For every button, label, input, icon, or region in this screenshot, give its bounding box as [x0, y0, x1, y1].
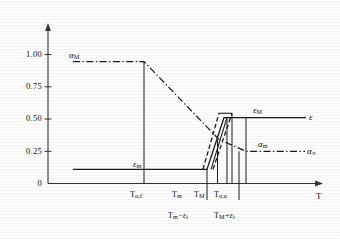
tm-minus-eps-tail-subscript: i: [186, 213, 188, 220]
x-tick-label-tm-minus-eps: Tm−εi: [168, 212, 188, 221]
x-axis-arrow: [315, 181, 323, 187]
x-tick-label-tm: Tm: [172, 191, 182, 200]
alpha-m-label: αm: [258, 140, 268, 150]
tm-minus-eps-tail: −ε: [178, 211, 187, 220]
chart-plot-area: [0, 0, 340, 239]
alpha-inf-subscript: ∞: [312, 149, 316, 156]
tm-subscript: m: [177, 192, 182, 199]
y-tick-label-5: 0: [12, 179, 42, 188]
x-axis-title: T: [316, 192, 322, 201]
alpha-curve: [73, 62, 305, 152]
tM-plus-eps-tail: +ε: [224, 211, 233, 220]
epsilon-m-subscript: m: [137, 162, 142, 169]
chart-figure: 1.00 0.75 0.50 0.25 0 αM εm εM ε αm α∞ T…: [0, 0, 340, 239]
y-tick-label-1: 1.00: [12, 50, 42, 59]
tM-plus-eps-tail-subscript: i: [233, 213, 235, 220]
epsilon-m-label: εm: [133, 160, 141, 170]
epsilon-curve: [73, 118, 306, 170]
alpha-M-subscript: M: [74, 53, 80, 60]
alpha-inf-label: α∞: [307, 147, 316, 157]
x-tick-label-t-alpha-l: Tα,ℓ: [130, 191, 142, 200]
y-axis-arrow: [45, 23, 51, 31]
tM-subscript: M: [199, 192, 205, 199]
t-alpha-u-subscript: α,u: [219, 192, 227, 199]
epsilon-M-subscript: M: [257, 108, 263, 115]
epsilon-symbol: ε: [309, 112, 313, 122]
epsilon-M-label: εM: [253, 106, 262, 116]
t-alpha-l-subscript: α,ℓ: [135, 192, 142, 199]
epsilon-label: ε: [309, 113, 313, 122]
alpha-M-label: αM: [69, 51, 79, 61]
x-tick-label-t-alpha-u: Tα,u: [214, 191, 227, 200]
x-tick-label-tM: TM: [194, 191, 204, 200]
drop-lines: [144, 62, 246, 201]
y-tick-label-4: 0.25: [12, 147, 42, 156]
alpha-m-subscript: m: [263, 142, 268, 149]
y-tick-label-2: 0.75: [12, 82, 42, 91]
epsilon-inner-rise: [211, 118, 227, 170]
x-tick-label-tM-plus-eps: TM+εi: [214, 212, 235, 221]
y-tick-label-3: 0.50: [12, 114, 42, 123]
